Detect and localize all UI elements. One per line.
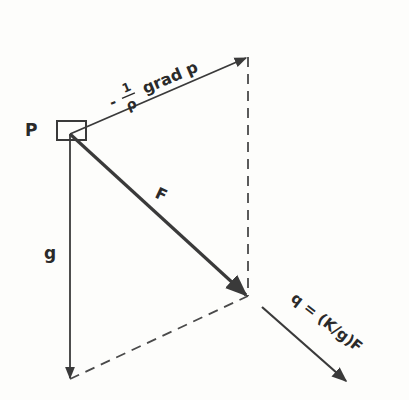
grad-p-label: - 1 ρ grad p (104, 53, 204, 119)
dashed-bottom-side (70, 296, 248, 379)
grad-p-arrow (70, 58, 246, 134)
svg-text:1: 1 (120, 80, 133, 96)
force-f-arrow (70, 134, 246, 295)
point-p-label: P (25, 120, 37, 140)
flux-q-label: q = (K/g)F (288, 289, 366, 356)
gravity-g-label: g (44, 243, 56, 263)
vector-diagram: P - 1 ρ grad p F g q = (K/g)F (0, 0, 409, 400)
diagram-canvas: P - 1 ρ grad p F g q = (K/g)F (0, 0, 409, 400)
svg-text:-: - (107, 93, 120, 112)
force-f-label: F (152, 183, 170, 205)
